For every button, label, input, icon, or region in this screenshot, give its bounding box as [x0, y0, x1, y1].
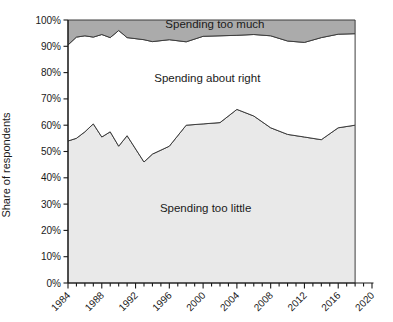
- x-tick-label: 2012: [285, 289, 309, 313]
- x-tick-label: 2000: [184, 289, 208, 313]
- x-tick-label: 2020: [353, 289, 377, 313]
- y-tick-label: 90%: [41, 41, 61, 52]
- y-tick-label: 0%: [47, 278, 62, 289]
- y-tick-label: 80%: [41, 67, 61, 78]
- annotation-spending-too-much: Spending too much: [165, 18, 264, 30]
- x-tick-label: 1996: [150, 289, 174, 313]
- spending-attitudes-chart-canvas: 0%10%20%30%40%50%60%70%80%90%100%1984198…: [0, 0, 393, 322]
- annotation-spending-too-little: Spending too little: [160, 202, 251, 214]
- y-tick-label: 20%: [41, 225, 61, 236]
- y-tick-label: 30%: [41, 199, 61, 210]
- y-tick-label: 40%: [41, 172, 61, 183]
- y-tick-label: 60%: [41, 120, 61, 131]
- x-tick-label: 2016: [319, 289, 343, 313]
- x-tick-label: 2008: [252, 289, 276, 313]
- y-tick-label: 100%: [35, 15, 61, 26]
- x-tick-label: 1984: [49, 289, 73, 313]
- stacked-area-chart: 0%10%20%30%40%50%60%70%80%90%100%1984198…: [0, 0, 393, 322]
- x-tick-label: 1988: [83, 289, 107, 313]
- y-axis-title: Share of respondents: [0, 112, 12, 218]
- y-tick-label: 70%: [41, 93, 61, 104]
- x-tick-label: 1992: [116, 289, 140, 313]
- x-tick-label: 2004: [218, 289, 242, 313]
- y-tick-label: 10%: [41, 251, 61, 262]
- y-tick-label: 50%: [41, 146, 61, 157]
- annotation-spending-about-right: Spending about right: [154, 72, 261, 84]
